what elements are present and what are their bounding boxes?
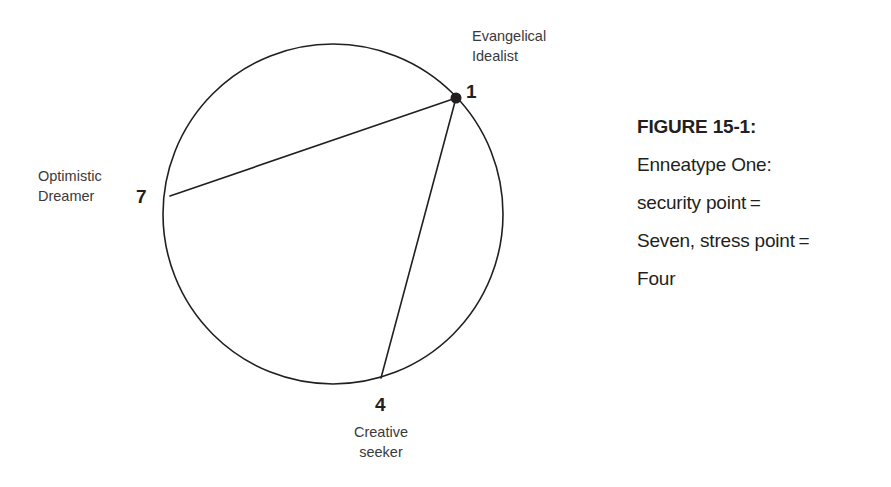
figure-caption: FIGURE 15-1: Enneatype One: security poi… <box>637 108 887 298</box>
figure-page: 1 Evangelical Idealist 7 Optimistic Drea… <box>0 0 891 487</box>
point-label-line: Optimistic <box>38 166 102 186</box>
point-label-line: Dreamer <box>38 186 102 206</box>
enneagram-diagram: 1 Evangelical Idealist 7 Optimistic Drea… <box>0 0 610 487</box>
point-number-one: 1 <box>466 82 477 101</box>
point-marker-one-dot <box>451 93 462 104</box>
point-number-four: 4 <box>375 395 386 414</box>
connector-one-to-four <box>381 98 456 378</box>
enneagram-svg <box>0 0 610 487</box>
figure-caption-line: Enneatype One: <box>637 146 887 184</box>
point-label-line: seeker <box>352 442 410 462</box>
point-number-seven: 7 <box>136 187 147 206</box>
point-label-evangelical-idealist: Evangelical Idealist <box>472 26 546 66</box>
figure-caption-title: FIGURE 15-1: <box>637 108 887 146</box>
figure-caption-line: security point = <box>637 184 887 222</box>
figure-caption-line: Four <box>637 260 887 298</box>
point-label-creative-seeker: Creative seeker <box>352 422 410 462</box>
point-label-line: Idealist <box>472 46 546 66</box>
figure-caption-line: Seven, stress point = <box>637 222 887 260</box>
connector-one-to-seven <box>170 98 456 196</box>
point-label-line: Creative <box>352 422 410 442</box>
point-label-optimistic-dreamer: Optimistic Dreamer <box>38 166 102 206</box>
point-label-line: Evangelical <box>472 26 546 46</box>
